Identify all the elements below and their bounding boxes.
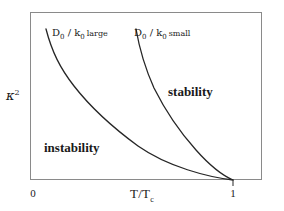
annotation-small-qualifier: small [167, 29, 191, 38]
xtick-label-0: 0 [23, 187, 43, 199]
region-label-stability: stability [168, 84, 213, 100]
annotation-d0k0-small: D0 / k0small [134, 27, 190, 41]
annotation-large-qualifier: large [85, 29, 108, 38]
y-axis-label-symbol: κ [6, 88, 15, 103]
x-axis-label-main: T/T [130, 186, 150, 201]
y-axis-label: κ2 [6, 88, 20, 103]
annotation-large-d: D [52, 27, 60, 38]
y-axis-label-exponent: 2 [15, 88, 20, 97]
annotation-d0k0-large: D0 / k0large [52, 27, 108, 41]
xtick-label-1: 1 [223, 187, 243, 199]
annotation-small-slash: / [147, 27, 157, 38]
x-axis-label-sub: c [150, 195, 154, 204]
region-label-instability: instability [44, 140, 100, 156]
annotation-small-d: D [134, 27, 142, 38]
phase-diagram-figure: κ2 T/Tc 0 1 D0 / k0large D0 / k0small st… [0, 0, 284, 211]
annotation-large-slash: / [65, 27, 75, 38]
